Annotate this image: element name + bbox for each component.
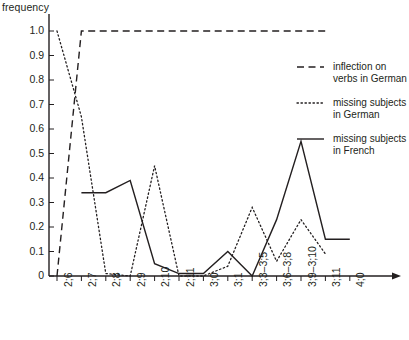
legend-label-line1-2: missing subjects [333, 133, 406, 145]
x-axis-arrow [392, 272, 401, 279]
legend-label-line2-2: in French [333, 145, 375, 157]
legend-label-line1-1: missing subjects [333, 97, 406, 109]
series-line-2 [81, 141, 349, 276]
frequency-line-chart: frequency 00.10.20.30.40.50.60.70.80.91.… [0, 0, 409, 340]
plot-area [0, 0, 409, 340]
legend-label-line2-0: verbs in German [333, 73, 407, 85]
series-line-1 [57, 31, 325, 276]
legend-label-line2-1: in German [333, 109, 380, 121]
series-line-0 [57, 31, 325, 276]
legend-label-line1-0: inflection on [333, 61, 386, 73]
data-series-group [57, 31, 350, 276]
